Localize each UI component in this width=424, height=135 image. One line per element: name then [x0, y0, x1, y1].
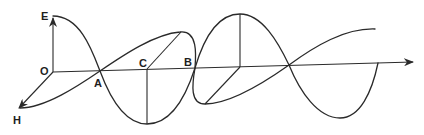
label-B: B [184, 56, 192, 68]
label-O: O [40, 65, 49, 77]
label-A: A [94, 77, 102, 89]
h-vector-arrow [19, 72, 53, 108]
c-oblique-line [147, 32, 181, 69]
lobe2-oblique-line [205, 67, 240, 104]
label-H: H [13, 114, 21, 126]
em-wave-diagram: E O H A C B [0, 0, 424, 135]
label-E: E [41, 10, 48, 22]
label-C: C [139, 57, 147, 69]
e-field-wave [53, 14, 378, 124]
